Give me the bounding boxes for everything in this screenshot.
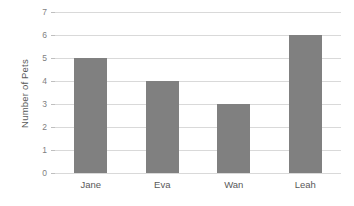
x-tick-label: Jane xyxy=(55,180,127,190)
x-tick-label: Eva xyxy=(127,180,199,190)
gridline xyxy=(55,173,341,174)
plot-area xyxy=(55,12,341,173)
y-tick-label: 4 xyxy=(33,77,47,86)
x-tick-label: Wan xyxy=(198,180,270,190)
x-tick-label: Leah xyxy=(270,180,342,190)
y-tick-label: 6 xyxy=(33,31,47,40)
y-tick-label: 0 xyxy=(33,169,47,178)
bar xyxy=(289,35,322,173)
bar xyxy=(146,81,179,173)
bar xyxy=(74,58,107,173)
y-tick-label: 7 xyxy=(33,8,47,17)
bar-chart: Number of Pets 01234567 JaneEvaWanLeah xyxy=(0,0,354,206)
y-tick-label: 1 xyxy=(33,146,47,155)
y-tick-label: 3 xyxy=(33,100,47,109)
y-tick-label: 2 xyxy=(33,123,47,132)
gridline xyxy=(55,12,341,13)
y-axis-title: Number of Pets xyxy=(14,13,34,174)
bar xyxy=(217,104,250,173)
y-tick-label: 5 xyxy=(33,54,47,63)
